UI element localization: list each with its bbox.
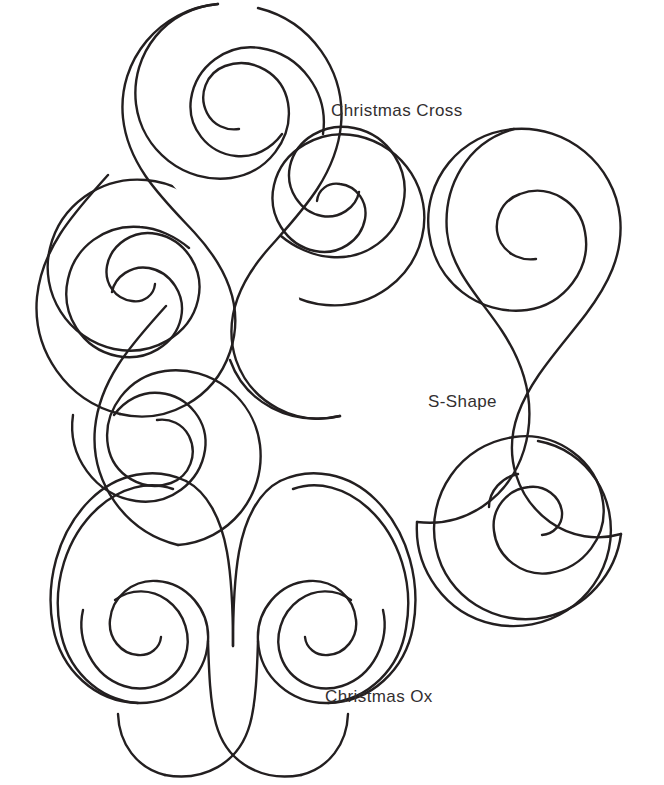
label-christmas-cross: Christmas Cross xyxy=(331,101,463,121)
label-s-shape: S-Shape xyxy=(428,392,497,412)
label-christmas-ox: Christmas Ox xyxy=(325,687,433,707)
